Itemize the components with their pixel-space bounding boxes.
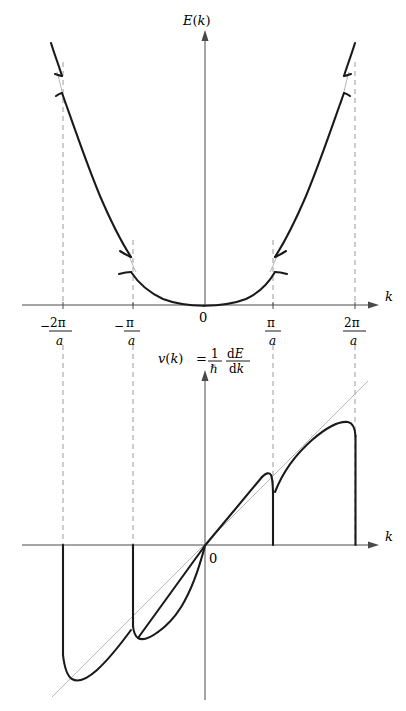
energy-band-outer-left (51, 43, 62, 76)
gap-lip-neg2pi-lower (56, 93, 62, 96)
energy-band-outer-right (344, 43, 355, 76)
velocity-branch-second-zone-right (275, 422, 356, 492)
energy-x-axis-label: k (385, 289, 393, 304)
energy-origin-label: 0 (199, 310, 207, 325)
velocity-label-equals: = (196, 351, 207, 366)
tick-sign: − (114, 319, 124, 333)
band-structure-figure: E(k) k 0 (0, 0, 406, 711)
velocity-branch-central-line (138, 477, 262, 638)
energy-band-first-right (204, 272, 275, 306)
energy-tick-label-pi: π a (265, 316, 281, 348)
velocity-branch-round-pi (262, 473, 273, 492)
bottom-panel-velocity-plot: v(k) = 1 ℏ dE dk k 0 (22, 347, 393, 700)
energy-y-axis-arrowhead (202, 30, 209, 41)
velocity-x-axis-label: k (385, 529, 393, 544)
gap-lip-pi-lower (275, 272, 287, 274)
top-panel-energy-plot: E(k) k 0 (22, 13, 393, 348)
velocity-frac2-numerator: dE (227, 347, 244, 361)
energy-x-axis-arrowhead (368, 302, 379, 309)
figure-svg: E(k) k 0 (0, 0, 406, 711)
tick-sign: − (40, 319, 50, 333)
velocity-branch-central-linear (158, 546, 205, 633)
velocity-frac1-numerator: 1 (211, 347, 219, 361)
energy-gap-lips (55, 74, 351, 274)
tick-numerator: π (267, 316, 275, 330)
energy-tick-label-neg2pi: − 2π a (40, 316, 72, 348)
tick-numerator: π (126, 316, 134, 330)
energy-band-second-right (275, 93, 344, 257)
zone-boundary-dashed-lines (63, 62, 355, 545)
tick-denominator: a (350, 334, 357, 348)
velocity-x-axis-arrowhead (368, 542, 379, 549)
tick-denominator: a (269, 334, 276, 348)
velocity-branch-third-zone-left (63, 630, 131, 680)
tick-denominator: a (56, 334, 63, 348)
tick-numerator: 2π (50, 316, 66, 330)
energy-tick-label-2pi: 2π a (343, 316, 366, 348)
tick-denominator: a (128, 334, 135, 348)
gap-lip-2pi-lower (344, 93, 350, 96)
energy-free-electron-reference (57, 72, 349, 272)
energy-band-first-left (131, 272, 204, 306)
velocity-label-lhs: v(k) (158, 351, 183, 366)
energy-band-second-left (62, 93, 131, 257)
velocity-origin-label: 0 (209, 551, 217, 566)
energy-tick-label-negpi: − π a (114, 316, 140, 348)
velocity-frac1-denominator: ℏ (210, 362, 218, 376)
gap-lip-negpi-lower (119, 272, 131, 274)
velocity-y-axis-arrowhead (202, 370, 209, 381)
velocity-frac2-denominator: dk (229, 362, 244, 376)
velocity-y-axis-label: v(k) = 1 ℏ dE dk (158, 347, 250, 376)
tick-numerator: 2π (344, 316, 360, 330)
energy-y-axis-label: E(k) (182, 13, 211, 28)
